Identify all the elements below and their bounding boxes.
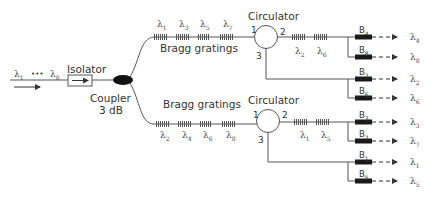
lower-grating-label: λ4 [182, 130, 192, 144]
filter-label: B4 [359, 26, 369, 38]
circulator-2 [257, 110, 280, 133]
upper-grating-label: λ1 [157, 19, 167, 33]
upper-grating-label: λ7 [223, 19, 233, 33]
output-wavelength: λ8 [410, 52, 420, 66]
output-wavelength: λ3 [410, 117, 420, 131]
output-wavelength: λ6 [410, 93, 420, 107]
output-wavelength: λ5 [410, 176, 420, 190]
filter-label: B7 [359, 130, 369, 142]
circulator-1-port-2: 2 [280, 27, 286, 37]
lower-port2-grating-label: λ1 [300, 130, 310, 144]
circulator-2-port-3: 3 [258, 135, 264, 145]
filter-label: B5 [359, 170, 369, 182]
circulator-2-port-1: 1 [253, 110, 259, 120]
output-wavelength: λ4 [410, 32, 420, 46]
output-wavelength: λ2 [410, 74, 420, 88]
filter-label: B6 [359, 87, 369, 99]
isolator-box [68, 75, 114, 86]
coupler-loss-label: 3 dB [99, 104, 123, 116]
circulator-1-label: Circulator [248, 10, 299, 22]
output-wavelength: λ7 [410, 136, 420, 150]
input-lambda-first: λ1 [14, 69, 24, 83]
isolator-label: Isolator [67, 63, 106, 75]
input-lambda-last: λ8 [50, 69, 60, 83]
input-ellipsis: ••• [31, 69, 43, 79]
lower-bragg-gratings-label: Bragg gratings [163, 98, 241, 110]
filter-label: B3 [359, 111, 369, 123]
lower-grating-label: λ2 [160, 130, 170, 144]
circulator-1-port-3: 3 [256, 51, 262, 61]
upper-port2-grating-label: λ2 [295, 46, 305, 60]
filter-label: B2 [359, 68, 369, 80]
upper-grating-label: λ3 [179, 19, 189, 33]
filter-label: B1 [359, 151, 369, 163]
output-wavelength: λ1 [410, 157, 420, 171]
upper-bragg-gratings-label: Bragg gratings [160, 42, 238, 54]
wdm-demultiplexer-diagram: λ1 ••• λ8 Isolator Coupler 3 dB λ1 λ3 λ5… [0, 0, 434, 197]
upper-grating-label: λ5 [200, 19, 210, 33]
upper-port2-grating-label: λ6 [317, 46, 327, 60]
filter-label: B8 [359, 46, 369, 58]
lower-port2-grating-label: λ5 [321, 130, 331, 144]
lower-grating-label: λ6 [203, 130, 213, 144]
lower-grating-label: λ8 [226, 130, 236, 144]
circulator-1-port-1: 1 [251, 25, 257, 35]
circulator-2-port-2: 2 [282, 110, 288, 120]
circulator-2-label: Circulator [248, 94, 299, 106]
coupler-label: Coupler [90, 92, 131, 104]
circulator-1 [255, 26, 278, 49]
